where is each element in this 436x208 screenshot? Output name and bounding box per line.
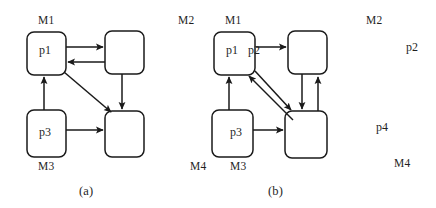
edge-b-m1-to-m4 (255, 71, 291, 110)
diagram-canvas (0, 0, 436, 208)
label-b-place-p3: p3 (230, 126, 242, 138)
label-b-machine-m1: M1 (225, 15, 241, 27)
side-label-m2: M2 (366, 15, 382, 27)
label-b-machine-m3: M3 (230, 161, 246, 173)
label-a-machine-m1: M1 (38, 15, 54, 27)
edge-b-m4-to-m1 (249, 76, 293, 120)
label-a-place-p1: p1 (39, 44, 51, 56)
side-label-p4: p4 (376, 121, 388, 133)
caption-a: (a) (79, 185, 93, 198)
figure-root: M1 M3 p1 p3 M2 M1 M4 M3 p1 p2 p3 M2 p2 p… (0, 0, 436, 208)
node-a-m4 (105, 111, 144, 157)
edge-a-m1-to-m4 (64, 72, 111, 112)
label-a-place-p3: p3 (39, 126, 51, 138)
side-label-p2: p2 (406, 41, 418, 53)
side-label-m4: M4 (394, 158, 410, 170)
label-b-place-p1: p1 (226, 44, 238, 56)
label-a-machine-m3: M3 (38, 161, 54, 173)
label-b-machine-m2: M2 (178, 15, 194, 27)
label-b-machine-m4: M4 (190, 161, 206, 173)
node-b-m2 (288, 31, 327, 74)
label-b-place-p2: p2 (248, 44, 260, 56)
caption-b: (b) (268, 185, 283, 198)
node-a-m2 (105, 31, 144, 74)
